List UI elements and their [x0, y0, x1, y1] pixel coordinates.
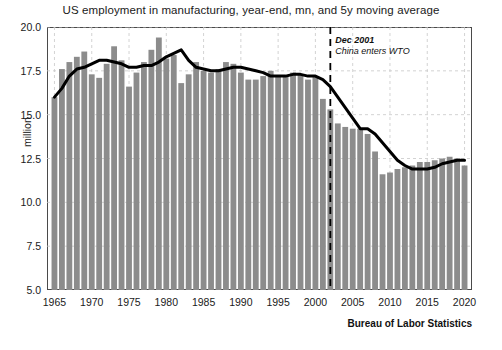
bar — [178, 83, 184, 290]
bar — [380, 174, 386, 290]
y-tick-label: 10.0 — [21, 196, 41, 208]
bar — [387, 173, 393, 290]
bar — [193, 62, 199, 290]
bar — [320, 99, 326, 290]
bar — [208, 73, 214, 290]
bar — [260, 76, 266, 290]
x-tick-label: 1975 — [117, 296, 140, 308]
bar — [395, 169, 401, 290]
bar — [126, 87, 132, 290]
y-tick-label: 12.5 — [21, 153, 41, 165]
bar — [350, 129, 356, 290]
x-tick-label: 1980 — [155, 296, 178, 308]
bar — [365, 134, 371, 290]
bar — [96, 78, 102, 290]
bar — [141, 62, 147, 290]
bar — [59, 69, 65, 290]
y-axis-label: million — [21, 117, 33, 147]
bar — [201, 71, 207, 290]
bar — [89, 74, 95, 290]
y-tick-label: 20.0 — [21, 21, 41, 33]
bar — [223, 62, 229, 290]
x-tick-label: 2015 — [416, 296, 439, 308]
bar — [238, 73, 244, 290]
x-tick-label: 1990 — [229, 296, 252, 308]
x-tick-label: 2000 — [304, 296, 327, 308]
source-note: Bureau of Labor Statistics — [348, 318, 472, 329]
x-tick-label: 1965 — [43, 296, 66, 308]
bar — [186, 74, 192, 290]
bar — [268, 71, 274, 290]
bar — [283, 76, 289, 290]
bar — [81, 52, 87, 290]
bar — [372, 151, 378, 290]
bar — [305, 80, 311, 290]
bar — [313, 76, 319, 290]
bar — [245, 80, 251, 290]
bar — [409, 166, 415, 290]
annotation-label: Dec 2001 China enters WTO — [335, 35, 409, 58]
x-tick-label: 2020 — [453, 296, 476, 308]
chart-canvas — [47, 27, 472, 290]
bar — [148, 50, 154, 290]
x-tick-label: 2005 — [341, 296, 364, 308]
plot-area: million 5.07.510.012.515.017.520.0 19651… — [47, 27, 472, 290]
annotation-line-2: China enters WTO — [335, 46, 409, 57]
bar — [439, 159, 445, 291]
bar-series — [52, 38, 468, 290]
bar — [52, 97, 58, 290]
chart-title: US employment in manufacturing, year-end… — [0, 4, 502, 16]
bar — [462, 166, 468, 290]
x-tick-label: 1985 — [192, 296, 215, 308]
bar — [163, 59, 169, 290]
bar — [424, 162, 430, 290]
bar — [134, 73, 140, 290]
bar — [447, 157, 453, 290]
bar — [111, 46, 117, 290]
bar — [298, 74, 304, 290]
bar — [342, 127, 348, 290]
chart-root: US employment in manufacturing, year-end… — [0, 0, 502, 350]
bar — [275, 76, 281, 290]
bar — [171, 55, 177, 290]
bar — [417, 162, 423, 290]
y-tick-label: 15.0 — [21, 109, 41, 121]
x-tick-label: 1995 — [266, 296, 289, 308]
bar — [119, 60, 125, 290]
bar — [230, 64, 236, 290]
y-tick-label: 7.5 — [26, 240, 41, 252]
x-tick-label: 2010 — [378, 296, 401, 308]
bar — [104, 64, 110, 290]
bar — [454, 159, 460, 291]
bar — [74, 57, 80, 290]
bar — [335, 123, 341, 290]
bar — [216, 69, 222, 290]
bar — [156, 38, 162, 290]
bar — [402, 167, 408, 290]
bar — [432, 160, 438, 290]
bar — [357, 129, 363, 290]
bar — [290, 73, 296, 290]
x-tick-label: 1970 — [80, 296, 103, 308]
annotation-line-1: Dec 2001 — [335, 35, 409, 46]
grid-lines — [47, 27, 472, 290]
bar — [253, 80, 259, 290]
y-tick-label: 17.5 — [21, 65, 41, 77]
y-tick-label: 5.0 — [26, 284, 41, 296]
bar — [66, 62, 72, 290]
